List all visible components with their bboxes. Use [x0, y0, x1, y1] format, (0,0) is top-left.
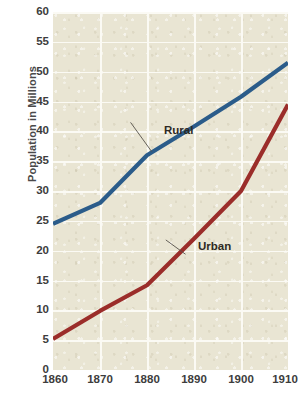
x-tick-label: 1860 — [42, 374, 68, 386]
series-line-rural — [53, 63, 288, 224]
series-label-urban: Urban — [198, 241, 231, 253]
plot-area: Rural Urban — [53, 12, 288, 370]
x-tick-label: 1900 — [228, 374, 254, 386]
chart-figure: Population in Millions 05101520253035404… — [0, 0, 298, 407]
x-tick-label: 1870 — [87, 374, 113, 386]
series-lines — [53, 12, 288, 370]
series-label-rural: Rural — [164, 125, 193, 137]
leader-line-rural — [131, 122, 152, 151]
x-tick-label: 1890 — [181, 374, 207, 386]
x-tick-label: 1910 — [272, 374, 298, 386]
x-tick-label: 1880 — [134, 374, 160, 386]
